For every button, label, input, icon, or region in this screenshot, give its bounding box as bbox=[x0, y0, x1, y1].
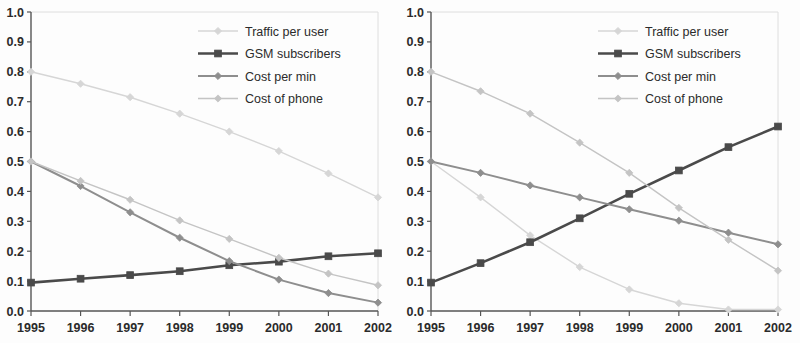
y-tick-label: 0.7 bbox=[7, 95, 24, 109]
legend-marker-cost_per_min bbox=[614, 72, 621, 79]
x-tick-label: 1999 bbox=[215, 321, 243, 335]
data-point bbox=[325, 170, 332, 177]
data-point bbox=[527, 110, 534, 117]
data-point bbox=[375, 250, 382, 257]
x-tick-label: 1996 bbox=[67, 321, 95, 335]
data-point bbox=[27, 68, 34, 75]
x-tick-label: 2002 bbox=[764, 321, 792, 335]
y-tick-label: 0.0 bbox=[407, 305, 424, 319]
legend-item-cost_per_min[interactable]: Cost per min bbox=[198, 70, 316, 84]
y-tick-label: 0.2 bbox=[407, 245, 424, 259]
legend-item-cost_of_phone[interactable]: Cost of phone bbox=[198, 92, 323, 106]
legend-item-traffic_per_user[interactable]: Traffic per user bbox=[198, 25, 328, 39]
y-tick-label: 0.8 bbox=[407, 65, 424, 79]
x-tick-label: 2002 bbox=[364, 321, 392, 335]
data-point bbox=[576, 194, 583, 201]
data-point bbox=[576, 263, 583, 270]
legend-label: Traffic per user bbox=[645, 25, 728, 39]
x-tick-label: 2001 bbox=[315, 321, 343, 335]
x-tick-label: 1998 bbox=[566, 321, 594, 335]
data-point bbox=[77, 275, 84, 282]
data-point bbox=[325, 253, 332, 260]
data-point bbox=[626, 206, 633, 213]
legend-item-traffic_per_user[interactable]: Traffic per user bbox=[598, 25, 728, 39]
data-point bbox=[576, 139, 583, 146]
y-tick-label: 0.4 bbox=[7, 185, 24, 199]
data-point bbox=[576, 215, 583, 222]
legend-label: Traffic per user bbox=[245, 25, 328, 39]
y-tick-label: 0.2 bbox=[7, 245, 24, 259]
y-tick-label: 0.5 bbox=[7, 155, 24, 169]
data-point bbox=[127, 94, 134, 101]
data-point bbox=[325, 289, 332, 296]
y-tick-label: 0.9 bbox=[407, 35, 424, 49]
x-tick-label: 2000 bbox=[665, 321, 693, 335]
x-tick-label: 1997 bbox=[116, 321, 144, 335]
data-point bbox=[775, 123, 782, 130]
data-point bbox=[27, 158, 34, 165]
legend-marker-cost_per_min bbox=[214, 72, 221, 79]
data-point bbox=[374, 299, 381, 306]
legend-item-cost_per_min[interactable]: Cost per min bbox=[598, 70, 716, 84]
data-point bbox=[428, 279, 435, 286]
legend-marker-cost_of_phone bbox=[214, 95, 221, 102]
data-point bbox=[127, 209, 134, 216]
data-point bbox=[176, 217, 183, 224]
data-point bbox=[325, 270, 332, 277]
data-point bbox=[477, 169, 484, 176]
data-point bbox=[427, 68, 434, 75]
legend-item-gsm_subscribers[interactable]: GSM subscribers bbox=[598, 47, 741, 61]
data-point bbox=[626, 286, 633, 293]
y-tick-label: 0.3 bbox=[407, 215, 424, 229]
x-tick-label: 1995 bbox=[417, 321, 445, 335]
series-cost_per_min bbox=[427, 158, 781, 248]
y-tick-label: 0.4 bbox=[407, 185, 424, 199]
legend-marker-traffic_per_user bbox=[214, 27, 221, 34]
x-tick-label: 1995 bbox=[17, 321, 45, 335]
y-tick-label: 0.6 bbox=[407, 125, 424, 139]
data-point bbox=[774, 267, 781, 274]
x-tick-label: 1998 bbox=[166, 321, 194, 335]
x-tick-label: 1999 bbox=[615, 321, 643, 335]
data-point bbox=[374, 194, 381, 201]
x-tick-label: 1997 bbox=[516, 321, 544, 335]
data-point bbox=[477, 260, 484, 267]
legend-label: Cost of phone bbox=[645, 92, 723, 106]
chart-panel-left: 0.00.10.20.30.40.50.60.70.80.91.01995199… bbox=[0, 0, 400, 343]
legend-item-gsm_subscribers[interactable]: GSM subscribers bbox=[198, 47, 341, 61]
legend: Traffic per userGSM subscribersCost per … bbox=[598, 25, 741, 107]
data-point bbox=[77, 177, 84, 184]
legend: Traffic per userGSM subscribersCost per … bbox=[198, 25, 341, 107]
legend-label: Cost of phone bbox=[245, 92, 323, 106]
data-point bbox=[77, 80, 84, 87]
data-point bbox=[127, 196, 134, 203]
y-tick-label: 0.6 bbox=[7, 125, 24, 139]
series-gsm_subscribers bbox=[428, 123, 782, 286]
data-point bbox=[226, 235, 233, 242]
y-tick-label: 0.1 bbox=[7, 275, 24, 289]
data-point bbox=[774, 241, 781, 248]
y-tick-label: 0.3 bbox=[7, 215, 24, 229]
legend-marker-cost_of_phone bbox=[614, 95, 621, 102]
data-point bbox=[28, 279, 35, 286]
y-tick-label: 0.7 bbox=[407, 95, 424, 109]
data-point bbox=[275, 147, 282, 154]
data-point bbox=[675, 217, 682, 224]
data-point bbox=[176, 234, 183, 241]
legend-item-cost_of_phone[interactable]: Cost of phone bbox=[598, 92, 723, 106]
data-point bbox=[176, 110, 183, 117]
x-tick-label: 1996 bbox=[467, 321, 495, 335]
legend-marker-gsm_subscribers bbox=[215, 50, 222, 57]
series-gsm_subscribers bbox=[28, 250, 382, 286]
data-point bbox=[774, 306, 781, 313]
data-point bbox=[626, 190, 633, 197]
y-tick-label: 1.0 bbox=[407, 6, 424, 20]
data-point bbox=[725, 236, 732, 243]
chart-panel-right: 0.00.10.20.30.40.50.60.70.80.91.01995199… bbox=[400, 0, 800, 343]
chart-svg: 0.00.10.20.30.40.50.60.70.80.91.01995199… bbox=[0, 0, 400, 343]
legend-label: GSM subscribers bbox=[645, 47, 741, 61]
data-point bbox=[477, 88, 484, 95]
x-tick-label: 2001 bbox=[715, 321, 743, 335]
data-point bbox=[226, 128, 233, 135]
two-panel-line-chart-figure: 0.00.10.20.30.40.50.60.70.80.91.01995199… bbox=[0, 0, 800, 343]
